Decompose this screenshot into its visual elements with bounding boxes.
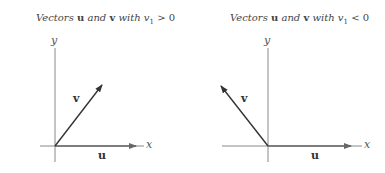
v-label: v bbox=[73, 92, 79, 105]
u-label: u bbox=[98, 149, 106, 162]
title-text: and bbox=[87, 12, 106, 23]
v-label: v bbox=[241, 92, 247, 105]
title-subscript: 1 bbox=[150, 18, 154, 26]
right-plot bbox=[221, 48, 362, 162]
title-v: v bbox=[109, 12, 115, 23]
x-axis-label: x bbox=[364, 138, 370, 151]
title-relation: < 0 bbox=[351, 12, 369, 23]
title-relation: > 0 bbox=[157, 12, 175, 23]
x-axis-label: x bbox=[146, 138, 152, 151]
y-axis-label: y bbox=[264, 34, 270, 47]
title-text: Vectors bbox=[230, 12, 268, 23]
title-text: with bbox=[312, 12, 334, 23]
y-axis-label: y bbox=[51, 34, 57, 47]
right-panel-title: Vectors u and v with v1 < 0 bbox=[230, 12, 369, 26]
title-v: v bbox=[303, 12, 309, 23]
title-u: u bbox=[77, 12, 84, 23]
title-text: Vectors bbox=[36, 12, 74, 23]
left-panel-title: Vectors u and v with v1 > 0 bbox=[36, 12, 175, 26]
u-label: u bbox=[311, 149, 319, 162]
title-subscript: 1 bbox=[344, 18, 348, 26]
title-text: with bbox=[118, 12, 140, 23]
title-u: u bbox=[271, 12, 278, 23]
title-text: and bbox=[281, 12, 300, 23]
left-plot bbox=[40, 48, 144, 162]
